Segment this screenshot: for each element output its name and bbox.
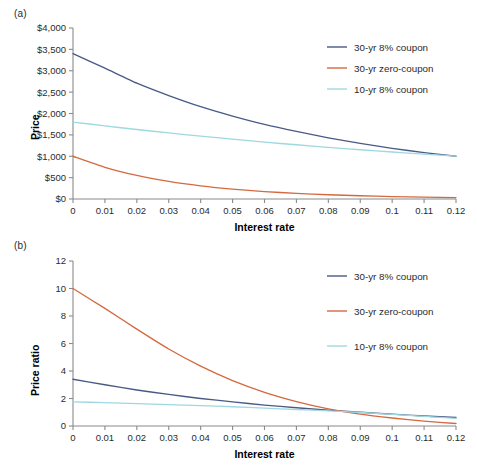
x-tick-label: 0.12 — [447, 432, 466, 443]
x-axis-title-interest-rate: Interest rate — [73, 448, 456, 460]
legend-label-1: 30-yr zero-coupon — [354, 63, 434, 74]
legend-label-1: 30-yr zero-coupon — [354, 306, 434, 317]
y-axis-title-price-ratio: Price ratio — [29, 345, 41, 396]
x-tick-label: 0.09 — [351, 432, 370, 443]
y-tick-label: 10 — [55, 283, 66, 294]
legend-label-2: 10-yr 8% coupon — [354, 341, 428, 352]
x-tick-label: 0.08 — [319, 205, 338, 216]
y-tick-label: 8 — [61, 310, 66, 321]
x-tick-label: 0.12 — [447, 205, 466, 216]
x-tick-label: 0.07 — [287, 432, 306, 443]
y-tick-label: 0 — [61, 420, 66, 431]
x-tick-label: 0.01 — [96, 205, 115, 216]
y-tick-label: 6 — [61, 338, 66, 349]
x-tick-label: 0.04 — [191, 432, 210, 443]
y-tick-label: $3,000 — [37, 65, 66, 76]
y-tick-label: $3,500 — [37, 44, 66, 55]
chart-panel-price-ratio: (b) 02468101200.010.020.030.040.050.060.… — [0, 236, 477, 472]
x-tick-label: 0.03 — [160, 205, 179, 216]
price-chart-svg: $0$500$1,000$1,500$2,000$2,500$3,000$3,5… — [0, 0, 477, 236]
x-tick-label: 0.1 — [386, 205, 399, 216]
y-tick-label: 12 — [55, 255, 66, 266]
series-line-2 — [73, 402, 456, 419]
y-tick-label: $0 — [55, 193, 66, 204]
y-tick-label: $4,000 — [37, 22, 66, 33]
x-tick-label: 0.06 — [255, 205, 274, 216]
legend-label-0: 30-yr 8% coupon — [354, 42, 428, 53]
x-tick-label: 0.05 — [223, 205, 242, 216]
y-tick-label: 4 — [61, 365, 66, 376]
series-line-0 — [73, 379, 456, 417]
x-tick-label: 0.07 — [287, 205, 306, 216]
y-axis-title-price: Price — [29, 114, 41, 140]
x-tick-label: 0.04 — [191, 205, 210, 216]
x-tick-label: 0.06 — [255, 432, 274, 443]
x-tick-label: 0.08 — [319, 432, 338, 443]
x-tick-label: 0.02 — [128, 432, 147, 443]
y-tick-label: $1,500 — [37, 129, 66, 140]
x-tick-label: 0.1 — [386, 432, 399, 443]
y-tick-label: $1,000 — [37, 151, 66, 162]
x-tick-label: 0.11 — [415, 205, 433, 216]
y-tick-label: $2,000 — [37, 108, 66, 119]
y-tick-label: $2,500 — [37, 87, 66, 98]
x-tick-label: 0 — [70, 205, 75, 216]
x-tick-label: 0.03 — [160, 432, 179, 443]
legend-label-2: 10-yr 8% coupon — [354, 84, 428, 95]
x-tick-label: 0.09 — [351, 205, 370, 216]
legend-label-0: 30-yr 8% coupon — [354, 271, 428, 282]
y-tick-label: 2 — [61, 393, 66, 404]
x-tick-label: 0.02 — [128, 205, 147, 216]
x-tick-label: 0 — [70, 432, 75, 443]
series-line-2 — [73, 122, 456, 156]
x-axis-title-interest-rate: Interest rate — [73, 221, 456, 233]
x-tick-label: 0.11 — [415, 432, 433, 443]
price-ratio-chart-svg: 02468101200.010.020.030.040.050.060.070.… — [0, 236, 477, 472]
x-tick-label: 0.01 — [96, 432, 115, 443]
x-tick-label: 0.05 — [223, 432, 242, 443]
chart-panel-price: (a) $0$500$1,000$1,500$2,000$2,500$3,000… — [0, 0, 477, 236]
series-line-1 — [73, 156, 456, 197]
y-tick-label: $500 — [45, 172, 66, 183]
